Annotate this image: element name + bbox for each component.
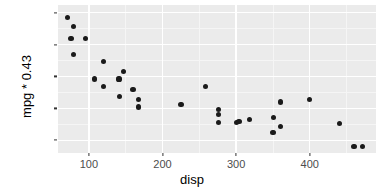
data-point xyxy=(278,99,283,104)
gridline-minor-horizontal xyxy=(58,92,376,93)
gridline-minor-vertical xyxy=(199,5,200,153)
data-point xyxy=(117,94,122,99)
y-axis-tick-mark xyxy=(54,108,57,109)
y-axis-label: mpg * 0.43 xyxy=(19,13,34,161)
data-point xyxy=(278,124,283,129)
data-point xyxy=(216,112,221,117)
data-point xyxy=(130,87,135,92)
data-point xyxy=(136,104,141,109)
data-point xyxy=(247,117,252,122)
gridline-minor-horizontal xyxy=(58,28,376,29)
x-axis-tick-mark xyxy=(236,153,237,156)
x-axis-tick-label: 400 xyxy=(301,158,319,170)
gridline-major-horizontal xyxy=(58,76,376,77)
x-axis-tick-label: 100 xyxy=(80,158,98,170)
gridline-major-horizontal xyxy=(58,44,376,45)
x-axis-label: disp xyxy=(0,172,384,187)
data-point xyxy=(271,115,276,120)
x-axis-tick-mark xyxy=(88,153,89,156)
data-point xyxy=(337,121,342,126)
gridline-major-vertical xyxy=(88,5,89,153)
gridline-minor-vertical xyxy=(125,5,126,153)
data-point xyxy=(68,36,73,41)
data-point xyxy=(351,144,356,149)
data-point xyxy=(71,52,76,57)
data-point xyxy=(216,120,221,125)
x-axis-tick-label: 300 xyxy=(227,158,245,170)
data-point xyxy=(236,119,241,124)
data-point xyxy=(121,69,126,74)
data-point xyxy=(116,76,121,81)
data-point xyxy=(92,76,97,81)
data-point xyxy=(270,130,275,135)
data-point xyxy=(178,102,183,107)
gridline-major-horizontal xyxy=(58,12,376,13)
y-axis-tick-mark xyxy=(54,140,57,141)
gridline-major-vertical xyxy=(309,5,310,153)
gridline-minor-vertical xyxy=(346,5,347,153)
x-axis-tick-mark xyxy=(162,153,163,156)
y-axis-tick-mark xyxy=(54,44,57,45)
x-axis-tick-mark xyxy=(309,153,310,156)
data-point xyxy=(101,84,106,89)
scatter-plot: 5.07.510.012.515.0100200300400 disp mpg … xyxy=(0,0,384,194)
data-point xyxy=(101,59,106,64)
x-axis-tick-label: 200 xyxy=(153,158,171,170)
data-point xyxy=(83,36,88,41)
y-axis-tick-mark xyxy=(54,12,57,13)
data-point xyxy=(360,144,365,149)
data-point xyxy=(307,97,312,102)
data-point xyxy=(136,97,141,102)
gridline-major-vertical xyxy=(162,5,163,153)
plot-panel xyxy=(58,5,376,153)
data-point xyxy=(65,15,70,20)
data-point xyxy=(203,84,208,89)
gridline-major-vertical xyxy=(235,5,236,153)
y-axis-tick-mark xyxy=(54,76,57,77)
gridline-major-horizontal xyxy=(58,140,376,141)
